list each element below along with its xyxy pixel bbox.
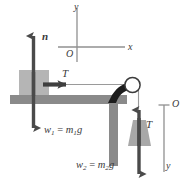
w2-symbol: w bbox=[76, 159, 83, 170]
force-label-tension-block: T bbox=[62, 68, 68, 79]
axis-label-origin: O bbox=[66, 49, 73, 59]
w1-equals: = bbox=[55, 124, 66, 135]
force-label-weight-1: w1 = m1g bbox=[44, 125, 82, 137]
hanging-axis-label-y: y bbox=[166, 161, 170, 171]
force-label-weight-2: w2 = m2g bbox=[76, 160, 114, 172]
force-label-normal: n bbox=[42, 31, 48, 42]
axis-label-y: y bbox=[74, 2, 78, 12]
axis-label-x: x bbox=[128, 42, 132, 52]
physics-diagram: y x O n T w1 = m1g T w2 = m2g O y bbox=[0, 0, 189, 186]
w2-gravity-symbol: g bbox=[109, 159, 114, 170]
w1-symbol: w bbox=[44, 124, 51, 135]
w1-gravity-symbol: g bbox=[77, 124, 82, 135]
force-label-tension-hanging: T bbox=[146, 119, 152, 130]
pulley bbox=[125, 77, 140, 92]
hanging-axis-label-origin: O bbox=[172, 99, 179, 109]
w2-equals: = bbox=[87, 159, 98, 170]
